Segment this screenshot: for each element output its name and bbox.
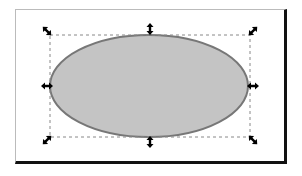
scale-handle-se-icon[interactable] — [246, 133, 259, 146]
scale-handle-sw-icon[interactable] — [40, 133, 53, 146]
scale-handle-nw-icon[interactable] — [40, 24, 53, 37]
scale-handle-n-icon[interactable] — [147, 23, 154, 35]
drawing-canvas[interactable] — [0, 0, 302, 176]
scale-handle-ne-icon[interactable] — [246, 24, 259, 37]
ellipse-shape[interactable] — [50, 35, 248, 137]
